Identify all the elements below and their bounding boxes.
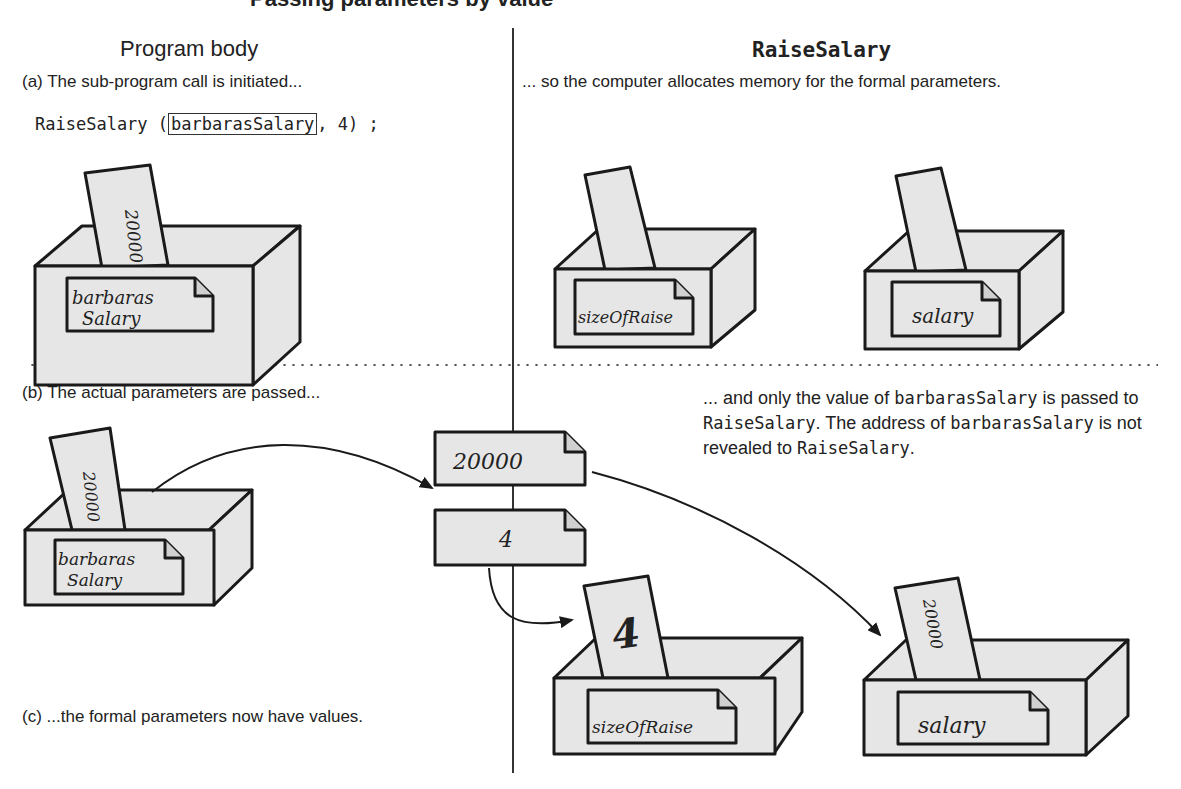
svg-text:salary: salary (912, 304, 974, 328)
svg-text:sizeOfRaise: sizeOfRaise (592, 717, 693, 737)
box-barbaras-salary-b (25, 428, 252, 605)
svg-text:4: 4 (498, 527, 513, 552)
arrow-to-size-of-raise-icon (489, 568, 572, 623)
svg-text:Salary: Salary (82, 308, 141, 329)
diagram-drawings: 20000 barbaras Salary sizeOfRaise salary… (0, 0, 1181, 789)
svg-text:Salary: Salary (67, 570, 122, 590)
arrow-pass-value-icon (152, 445, 432, 492)
svg-text:20000: 20000 (452, 449, 523, 474)
box-salary-c (864, 578, 1128, 755)
box-barbaras-salary-a (35, 165, 300, 385)
svg-text:salary: salary (918, 713, 986, 738)
svg-text:barbaras: barbaras (72, 287, 154, 308)
svg-text:barbaras: barbaras (58, 549, 135, 569)
svg-text:sizeOfRaise: sizeOfRaise (578, 308, 673, 327)
